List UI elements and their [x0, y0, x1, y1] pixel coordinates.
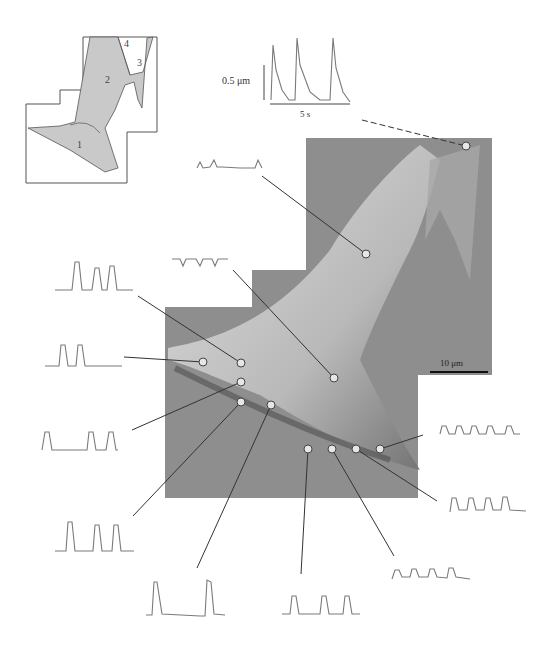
schematic-region-3: 3 — [137, 57, 142, 68]
trace-left-3 — [42, 432, 118, 450]
schematic-inset: 1 2 3 4 — [26, 37, 157, 183]
probe-dot — [237, 359, 245, 367]
probe-dot — [237, 378, 245, 386]
trace-scale-horizontal: 5 s — [300, 109, 311, 119]
figure-canvas: 1 2 3 4 10 μm 0.5 μm 5 s — [0, 0, 558, 646]
afm-image — [165, 138, 492, 498]
probe-dot — [304, 445, 312, 453]
trace-left-1 — [55, 262, 133, 290]
trace-mid-low — [146, 580, 225, 616]
schematic-region-1: 1 — [77, 139, 82, 150]
probe-dot — [199, 358, 207, 366]
probe-dot — [328, 445, 336, 453]
probe-dot — [330, 374, 338, 382]
probe-dot — [237, 398, 245, 406]
trace-left-2 — [45, 345, 122, 366]
trace-inverted — [172, 259, 228, 266]
image-scale-label: 10 μm — [440, 358, 463, 368]
trace-left-4 — [55, 522, 134, 551]
probe-dot — [267, 401, 275, 409]
trace-upper-mid — [197, 160, 262, 168]
schematic-region-4: 4 — [124, 38, 129, 49]
trace-right — [440, 426, 520, 434]
trace-top — [271, 38, 350, 102]
probe-dot — [362, 250, 370, 258]
probe-dot — [352, 445, 360, 453]
trace-bottom-2 — [392, 568, 470, 579]
trace-bottom-1 — [282, 596, 360, 614]
schematic-region-2: 2 — [105, 74, 110, 85]
trace-scale-vertical: 0.5 μm — [222, 75, 250, 86]
probe-dot — [376, 445, 384, 453]
trace-bottom-3 — [450, 497, 526, 512]
probe-dot — [462, 142, 470, 150]
